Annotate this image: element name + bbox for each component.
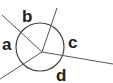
label-d: d [56, 66, 66, 83]
angle-diagram: a b c d [0, 0, 113, 83]
ray-lower-left [0, 52, 42, 79]
ray-upper-right [42, 8, 57, 52]
label-b: b [22, 7, 32, 26]
ray-right [42, 52, 113, 64]
label-a: a [2, 35, 12, 54]
label-c: c [68, 33, 77, 52]
